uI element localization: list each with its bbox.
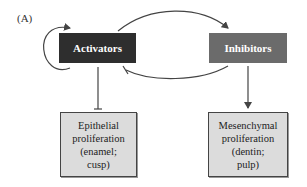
inhibition-arrow [126,66,228,79]
activators-node: Activators [59,33,136,63]
inhibitors-node: Inhibitors [209,33,287,63]
activation-arrow [118,11,228,31]
mesenchymal-proliferation-node: Mesenchymal proliferation (dentin; pulp) [208,112,288,177]
epithelial-label: Epithelial proliferation (enamel; cusp) [72,119,124,171]
activators-label: Activators [73,42,122,54]
epithelial-proliferation-node: Epithelial proliferation (enamel; cusp) [60,112,137,177]
inhibitors-label: Inhibitors [224,42,271,54]
panel-label: (A) [17,12,32,24]
mesenchymal-label: Mesenchymal proliferation (dentin; pulp) [219,119,278,171]
